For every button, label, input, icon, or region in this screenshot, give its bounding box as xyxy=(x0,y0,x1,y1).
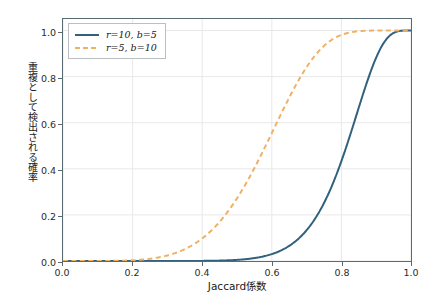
x-tick-mark xyxy=(342,262,343,266)
y-axis-title: 重複として検出される確率 xyxy=(20,62,36,232)
x-axis-title: Jaccard係数 xyxy=(62,278,412,293)
series-line-r=5, b=10 xyxy=(63,31,411,261)
x-tick-label-0.0: 0.0 xyxy=(47,267,77,278)
legend-label-0: r=10, b=5 xyxy=(106,29,157,40)
x-tick-mark xyxy=(132,262,133,266)
chart-legend[interactable]: r=10, b=5 r=5, b=10 xyxy=(68,23,166,59)
x-tick-label-0.2: 0.2 xyxy=(117,267,147,278)
x-tick-mark xyxy=(411,262,412,266)
x-tick-label-0.8: 0.8 xyxy=(327,267,357,278)
x-tick-mark xyxy=(62,262,63,266)
legend-line-sample-solid xyxy=(74,30,100,40)
y-tick-label-1.0: 1.0 xyxy=(30,27,56,38)
legend-entry-1: r=5, b=10 xyxy=(74,41,157,54)
chart-figure: 重複として検出される確率 1.0 0.8 0.6 0.4 0.2 0.0 0.0… xyxy=(0,0,432,304)
y-tick-label-0.8: 0.8 xyxy=(30,73,56,84)
legend-line-sample-dashed xyxy=(74,43,100,53)
legend-entry-0: r=10, b=5 xyxy=(74,28,157,41)
series-line-r=10, b=5 xyxy=(63,31,411,261)
legend-label-1: r=5, b=10 xyxy=(106,42,157,53)
x-tick-mark xyxy=(272,262,273,266)
y-tick-label-0.4: 0.4 xyxy=(30,165,56,176)
y-tick-label-0.2: 0.2 xyxy=(30,211,56,222)
x-tick-label-0.4: 0.4 xyxy=(187,267,217,278)
x-tick-mark xyxy=(202,262,203,266)
x-tick-label-1.0: 1.0 xyxy=(396,267,426,278)
y-tick-label-0.6: 0.6 xyxy=(30,119,56,130)
x-tick-label-0.6: 0.6 xyxy=(257,267,287,278)
